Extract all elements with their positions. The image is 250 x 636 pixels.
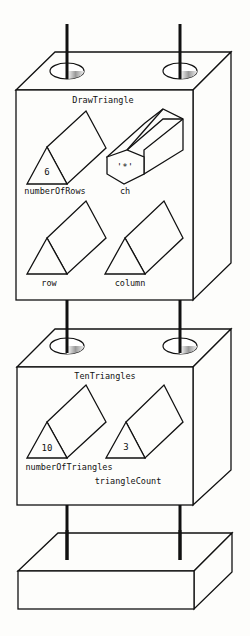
variable-value: '*' — [117, 162, 133, 172]
call-stack-diagram: DrawTriangle 6 numberOfRows '*' ch row — [0, 0, 250, 636]
variable-name: row — [41, 278, 57, 288]
frame-title: TenTriangles — [74, 371, 135, 381]
variable-value: 3 — [123, 442, 128, 452]
frame-base — [18, 533, 232, 609]
variable-name: numberOfTriangles — [26, 462, 113, 472]
frame-tentriangles: TenTriangles 10 numberOfTriangles 3 tria… — [17, 329, 231, 505]
variable-name: triangleCount — [95, 476, 162, 486]
frame-drawtriangle: DrawTriangle 6 numberOfRows '*' ch row — [16, 24, 231, 300]
side-face — [193, 52, 231, 300]
variable-name: numberOfRows — [24, 186, 85, 196]
variable-value: 10 — [42, 443, 53, 453]
front-face — [18, 571, 194, 609]
frame-title: DrawTriangle — [72, 95, 133, 105]
variable-name: column — [115, 278, 146, 288]
variable-name: ch — [120, 186, 130, 196]
variable-value: 6 — [44, 167, 49, 177]
